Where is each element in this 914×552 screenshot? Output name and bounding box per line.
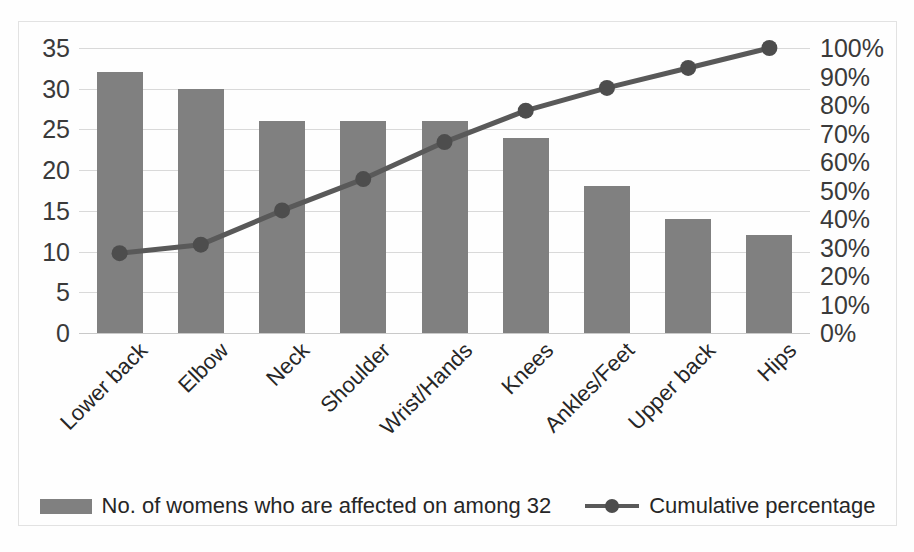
y-axis-left-tick: 5 [56,280,70,305]
bar [97,72,143,333]
legend-item-line[interactable]: Cumulative percentage [585,495,875,517]
y-axis-right-tick: 20% [820,264,870,289]
legend-item-bars[interactable]: No. of womens who are affected on among … [40,495,552,517]
y-axis-right-tick: 40% [820,207,870,232]
legend-label-line: Cumulative percentage [649,495,875,517]
pareto-chart: 05101520253035 0%10%20%30%40%50%60%70%80… [0,0,914,552]
y-axis-right-tick: 50% [820,178,870,203]
y-axis-right: 0%10%20%30%40%50%60%70%80%90%100% [820,48,898,333]
chart-legend: No. of womens who are affected on among … [18,489,897,523]
y-axis-right-tick: 60% [820,150,870,175]
bar-swatch-icon [40,499,92,514]
y-axis-right-tick: 30% [820,235,870,260]
y-axis-left-tick: 15 [42,198,70,223]
line-marker-icon [585,498,639,514]
y-axis-right-tick: 80% [820,93,870,118]
legend-label-bars: No. of womens who are affected on among … [102,495,552,517]
gridline [79,48,810,49]
y-axis-right-tick: 70% [820,121,870,146]
y-axis-left-tick: 30 [42,76,70,101]
y-axis-right-tick: 10% [820,292,870,317]
bar [340,121,386,333]
y-axis-right-tick: 100% [820,36,884,61]
y-axis-right-tick: 90% [820,64,870,89]
y-axis-left: 05101520253035 [20,48,70,333]
y-axis-left-tick: 10 [42,239,70,264]
y-axis-left-tick: 25 [42,117,70,142]
y-axis-left-tick: 20 [42,158,70,183]
bar [259,121,305,333]
y-axis-left-tick: 0 [56,321,70,346]
x-axis-labels: Lower backElbowNeckShoulderWrist/HandsKn… [79,333,810,473]
y-axis-left-tick: 35 [42,36,70,61]
